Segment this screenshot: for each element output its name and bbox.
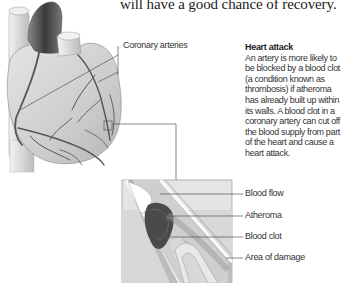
label-blood-clot: Blood clot (245, 231, 282, 241)
sidebar-body: An artery is more likely to be blocked b… (245, 53, 347, 159)
label-blood-flow: Blood flow (245, 188, 284, 198)
artery-inset (122, 180, 232, 283)
body-text-line: will have a good chance of recovery. (120, 0, 337, 13)
coronary-arteries-label: Coronary arteries (123, 40, 187, 50)
heart (7, 2, 121, 172)
label-atheroma: Atheroma (245, 210, 282, 220)
sidebar-title: Heart attack (245, 42, 347, 53)
heart-attack-sidebar: Heart attack An artery is more likely to… (245, 42, 347, 159)
label-area-of-damage: Area of damage (245, 252, 305, 262)
